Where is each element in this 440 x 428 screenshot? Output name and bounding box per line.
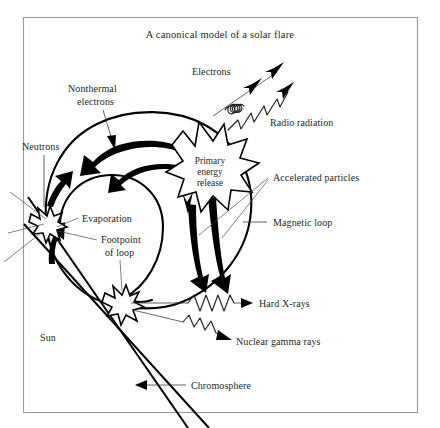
magnetic-loop-label: Magnetic loop <box>273 217 332 228</box>
electrons-label: Electrons <box>192 66 231 77</box>
primary-energy-label-line2: energy <box>197 167 223 177</box>
primary-energy-label-line3: release <box>197 178 223 188</box>
nonthermal-electrons-label-line2: electrons <box>77 96 114 107</box>
primary-energy-label-line1: Primary <box>195 156 226 166</box>
radio-radiation-label: Radio radiation <box>270 117 333 128</box>
solar-flare-figure: A canonical model of a solar flare Prima… <box>0 0 440 428</box>
figure-background <box>0 0 440 428</box>
footpoint-label-line2: of loop <box>105 247 134 258</box>
footpoint-label-line1: Footpoint <box>101 234 141 245</box>
chromosphere-label: Chromosphere <box>191 380 252 391</box>
solar-flare-diagram: A canonical model of a solar flare Prima… <box>0 0 440 428</box>
nuclear-gamma-rays-label: Nuclear gamma rays <box>236 336 321 347</box>
hard-xrays-label: Hard X-rays <box>259 298 310 309</box>
neutrons-label: Neutrons <box>22 141 59 152</box>
accelerated-particles-label: Accelerated particles <box>273 172 359 183</box>
figure-title: A canonical model of a solar flare <box>146 29 295 40</box>
evaporation-label: Evaporation <box>82 213 132 224</box>
sun-label: Sun <box>40 332 56 343</box>
nonthermal-electrons-label-line1: Nonthermal <box>68 83 117 94</box>
